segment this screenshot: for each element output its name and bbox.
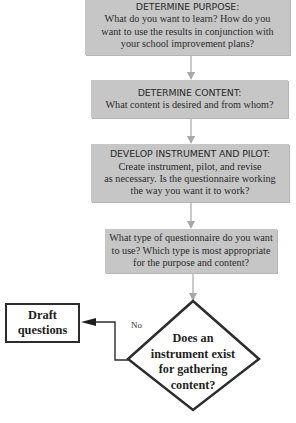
step-questionnaire-type: What type of questionnaire do you want t…	[105, 229, 277, 273]
step-title: DETERMINE CONTENT:	[138, 87, 242, 99]
step-description: Create instrument, pilot, and revise as …	[104, 161, 275, 198]
decision-question: Does an instrument exist for gathering c…	[140, 331, 246, 393]
step-title: DETERMINE PURPOSE:	[136, 1, 239, 13]
action-draft-questions: Draft questions	[5, 303, 80, 343]
step-develop-instrument: DEVELOP INSTRUMENT AND PILOT: Create ins…	[91, 144, 289, 202]
arrowhead-left-icon	[81, 318, 96, 326]
step-determine-content: DETERMINE CONTENT: What content is desir…	[91, 80, 288, 118]
arrowhead-icon	[187, 72, 195, 80]
step-description: What do you want to learn? How do you wa…	[101, 13, 273, 50]
step-description: What type of questionnaire do you want t…	[109, 232, 273, 269]
no-branch-label: No	[131, 320, 142, 330]
arrowhead-icon	[187, 136, 195, 144]
no-branch-connector	[92, 322, 128, 360]
step-determine-purpose: DETERMINE PURPOSE: What do you want to l…	[85, 0, 290, 55]
arrowhead-icon	[187, 221, 195, 229]
step-title: DEVELOP INSTRUMENT AND PILOT:	[110, 148, 270, 160]
step-description: What content is desired and from whom?	[105, 99, 273, 111]
